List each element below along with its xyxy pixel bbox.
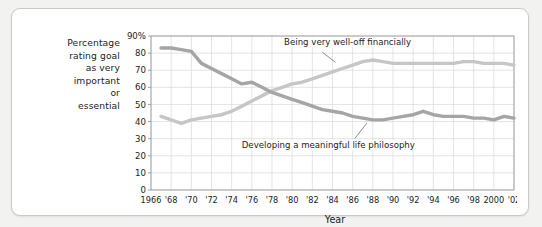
y-axis-caption-line: or <box>24 87 120 100</box>
x-tick-label: '70 <box>185 195 198 205</box>
y-axis-caption-line: Percentage <box>24 37 120 50</box>
x-tick-label: '86 <box>346 195 359 205</box>
x-tick-label: '80 <box>286 195 299 205</box>
x-tick-label: '98 <box>467 195 480 205</box>
y-tick-label: 0 <box>141 185 146 195</box>
plot-area: 0102030405060708090% 1966'68'70'72'74'76… <box>125 32 517 227</box>
x-tick-label: '68 <box>165 195 178 205</box>
x-axis-title: Year <box>324 214 345 225</box>
annotation-leader-line <box>322 52 335 62</box>
series-annotation-label: Being very well-off financially <box>284 37 411 47</box>
y-tick-label: 70 <box>135 65 146 75</box>
x-tick-label: '90 <box>387 195 400 205</box>
chart-panel: Percentage rating goal as very important… <box>11 8 529 216</box>
y-tick-label: 30 <box>135 134 146 144</box>
y-tick-label: 20 <box>135 151 146 161</box>
x-tick-label: '72 <box>205 195 218 205</box>
y-axis-caption-line: important <box>24 75 120 88</box>
data-series <box>161 48 514 123</box>
y-axis-caption: Percentage rating goal as very important… <box>24 37 120 113</box>
y-axis-caption-line: essential <box>24 100 120 113</box>
x-tick-label: '02 <box>508 195 517 205</box>
annotation-leader-line <box>355 123 367 138</box>
y-tick-labels: 0102030405060708090% <box>127 32 151 195</box>
x-tick-label: 1966 <box>141 195 162 205</box>
x-tick-label: '88 <box>366 195 379 205</box>
y-tick-label: 80 <box>135 48 146 58</box>
line-chart: 0102030405060708090% 1966'68'70'72'74'76… <box>125 32 517 227</box>
y-tick-label: 10 <box>135 168 146 178</box>
series-annotation-label: Developing a meaningful life philosophy <box>242 140 415 150</box>
y-axis-caption-line: rating goal <box>24 50 120 63</box>
y-tick-label: 90% <box>127 32 146 41</box>
x-tick-label: '94 <box>427 195 440 205</box>
x-tick-label: '74 <box>225 195 238 205</box>
x-tick-labels: 1966'68'70'72'74'76'78'80'82'84'86'88'90… <box>141 195 517 205</box>
y-tick-label: 40 <box>135 117 146 127</box>
x-tick-label: '78 <box>266 195 279 205</box>
x-tick-label: '96 <box>447 195 460 205</box>
x-tick-label: '92 <box>407 195 420 205</box>
y-tick-label: 60 <box>135 82 146 92</box>
x-tick-label: 2000 <box>483 195 504 205</box>
y-axis-caption-line: as very <box>24 62 120 75</box>
x-tick-label: '84 <box>326 195 339 205</box>
x-tick-label: '76 <box>245 195 258 205</box>
series-line <box>161 48 514 120</box>
y-tick-label: 50 <box>135 100 146 110</box>
x-tick-label: '82 <box>306 195 319 205</box>
